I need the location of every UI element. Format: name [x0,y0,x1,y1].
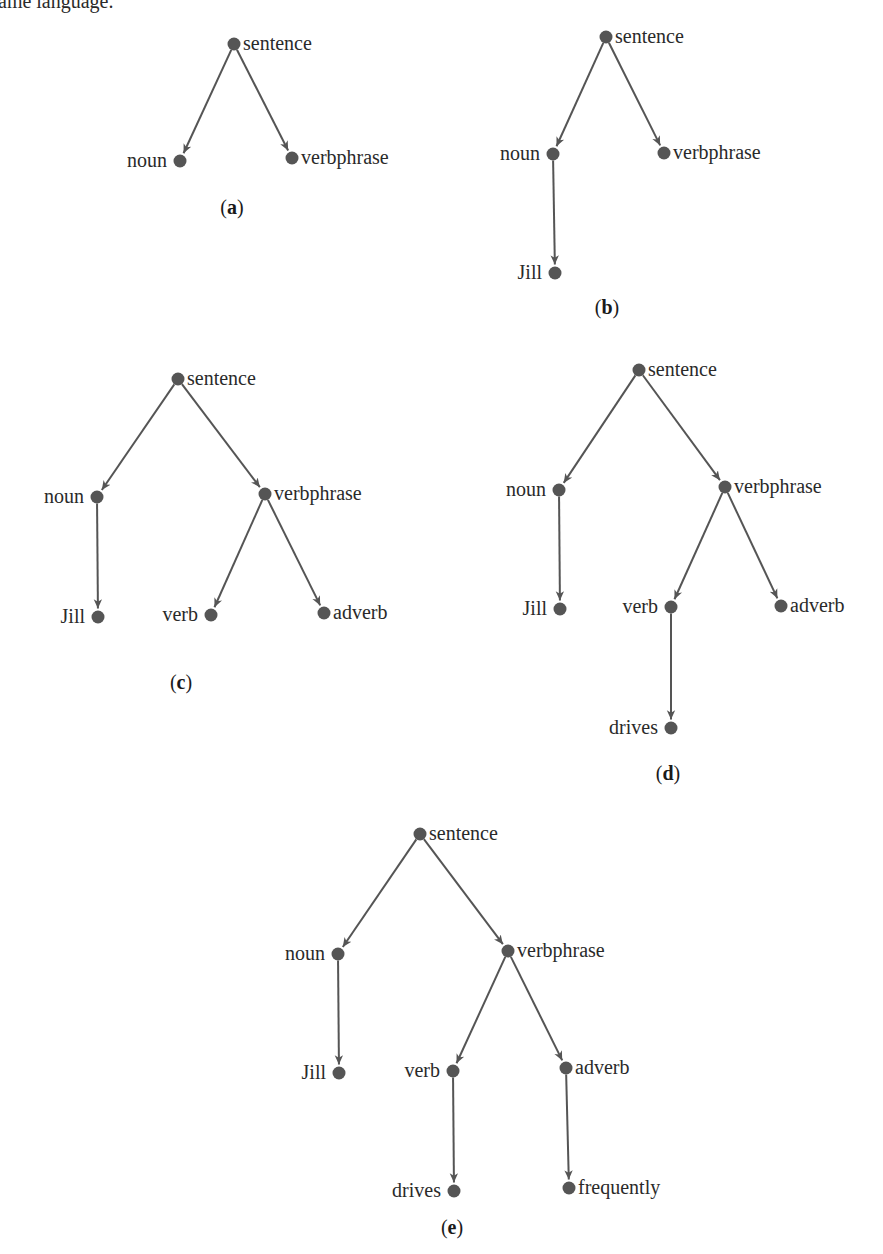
edge-noun-to-jill [559,496,560,600]
edge-sentence-to-verbphrase [424,839,503,944]
node-dot-sentence [414,828,427,841]
node-label-jill: Jill [523,597,548,619]
edge-sentence-to-verbphrase [182,384,260,487]
node-dot-verb [665,601,678,614]
caption-b: (b) [595,296,619,319]
node-dot-drives [448,1185,461,1198]
node-dot-jill [92,611,105,624]
node-dot-adverb [775,600,788,613]
tree-d: sentencenounverbphraseJillverbadverbdriv… [506,358,844,785]
node-dot-sentence [633,364,646,377]
node-dot-jill [549,267,562,280]
node-label-drives: drives [392,1179,441,1201]
tree-a: sentencenounverbphrase(a) [127,32,389,219]
node-dot-verbphrase [719,481,732,494]
edge-sentence-to-noun [564,375,636,483]
node-dot-jill [333,1067,346,1080]
edge-sentence-to-verbphrase [237,50,288,151]
edge-verb-to-drives [453,1077,454,1182]
node-dot-verb [205,609,218,622]
node-dot-noun [91,491,104,504]
node-dot-verbphrase [502,945,515,958]
node-dot-sentence [172,373,185,386]
node-label-verbphrase: verbphrase [274,482,362,505]
node-dot-sentence [600,31,613,44]
node-label-verb: verb [162,603,198,625]
node-label-sentence: sentence [243,32,312,54]
node-dot-frequently [563,1182,576,1195]
node-label-verbphrase: verbphrase [734,475,822,498]
node-dot-noun [547,148,560,161]
edge-verbphrase-to-adverb [728,493,778,598]
edge-sentence-to-noun [184,50,232,153]
node-label-adverb: adverb [575,1056,629,1078]
node-label-sentence: sentence [615,25,684,47]
node-label-verb: verb [404,1059,440,1081]
node-dot-noun [332,948,345,961]
tree-b: sentencenounverbphraseJill(b) [500,25,761,319]
node-dot-verbphrase [658,147,671,160]
parse-tree-figure: sentencenounverbphrase(a)sentencenounver… [0,0,883,1254]
node-label-verbphrase: verbphrase [517,939,605,962]
node-label-sentence: sentence [648,358,717,380]
node-label-sentence: sentence [187,367,256,389]
node-dot-verbphrase [259,488,272,501]
edge-verbphrase-to-adverb [511,957,562,1061]
node-dot-drives [665,722,678,735]
edge-sentence-to-noun [102,384,175,490]
node-label-verb: verb [622,595,658,617]
node-label-noun: noun [285,942,325,964]
node-dot-sentence [228,38,241,51]
node-label-noun: noun [127,149,167,171]
node-dot-verbphrase [286,152,299,165]
caption-e: (e) [441,1216,463,1239]
edge-sentence-to-verbphrase [609,43,660,146]
node-dot-noun [553,484,566,497]
node-label-verbphrase: verbphrase [673,141,761,164]
edge-verbphrase-to-adverb [268,500,320,606]
edge-verbphrase-to-verb [457,957,506,1063]
node-dot-jill [554,603,567,616]
node-dot-noun [174,155,187,168]
edge-noun-to-jill [338,960,339,1064]
edge-noun-to-jill [553,160,555,264]
node-label-drives: drives [609,716,658,738]
tree-e: sentencenounverbphraseJillverbadverbdriv… [285,822,660,1239]
caption-d: (d) [656,762,680,785]
node-label-frequently: frequently [578,1176,660,1199]
node-label-verbphrase: verbphrase [301,146,389,169]
edge-verbphrase-to-verb [674,493,722,599]
edge-sentence-to-verbphrase [643,375,720,480]
node-label-adverb: adverb [333,601,387,623]
caption-c: (c) [170,671,192,694]
node-label-noun: noun [506,478,546,500]
node-dot-verb [447,1065,460,1078]
node-label-jill: Jill [518,261,543,283]
node-label-adverb: adverb [790,594,844,616]
node-label-jill: Jill [61,605,86,627]
edge-sentence-to-noun [343,839,417,947]
tree-c: sentencenounverbphraseJillverbadverb(c) [44,367,387,694]
edge-noun-to-jill [97,503,98,608]
node-label-sentence: sentence [429,822,498,844]
node-dot-adverb [560,1062,573,1075]
edge-verbphrase-to-verb [214,500,262,607]
node-label-noun: noun [500,142,540,164]
edge-adverb-to-frequently [566,1074,569,1179]
node-label-noun: noun [44,485,84,507]
caption-a: (a) [220,196,243,219]
node-dot-adverb [318,607,331,620]
node-label-jill: Jill [302,1061,327,1083]
edge-sentence-to-noun [557,43,604,146]
